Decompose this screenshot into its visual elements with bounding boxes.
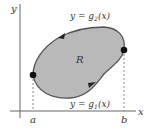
point-b-dot [121, 47, 128, 54]
upper-curve-arrow-icon [58, 33, 65, 39]
y-axis-label: y [10, 3, 17, 14]
x-axis-label: x [138, 106, 144, 117]
b-label: b [121, 114, 127, 125]
region-label: R [75, 54, 84, 65]
lower-curve-label: y = g1(x) [69, 99, 111, 110]
point-a-dot [30, 72, 37, 79]
region-diagram: y x R a b y = g2(x) y = g1(x) [0, 0, 149, 130]
upper-curve-label: y = g2(x) [69, 11, 111, 22]
a-label: a [30, 114, 36, 125]
